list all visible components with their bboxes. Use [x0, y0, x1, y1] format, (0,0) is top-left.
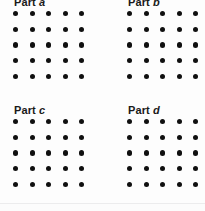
dot-marker: [160, 11, 165, 16]
dot-cell: [13, 58, 30, 74]
dot-cell: [63, 150, 80, 166]
dot-marker: [193, 42, 198, 47]
dot-cell: [127, 11, 144, 27]
dot-cell: [46, 27, 63, 43]
dot-marker: [30, 182, 35, 187]
dot-marker: [160, 150, 165, 155]
dot-marker: [193, 74, 198, 79]
dot-marker: [193, 150, 198, 155]
dot-cell: [193, 135, 205, 151]
dot-cell: [160, 119, 177, 135]
bottom-divider: [0, 203, 205, 204]
dot-cell: [144, 11, 161, 27]
dot-marker: [144, 58, 149, 63]
dot-cell: [144, 119, 161, 135]
dot-marker: [63, 27, 68, 32]
dot-cell: [46, 182, 63, 198]
dot-marker: [13, 58, 18, 63]
dot-marker: [30, 166, 35, 171]
dot-cell: [30, 135, 47, 151]
dot-marker: [79, 58, 84, 63]
dot-cell: [79, 182, 96, 198]
dot-cell: [160, 135, 177, 151]
panel-b-label-prefix: Part: [128, 0, 153, 8]
dot-cell: [46, 58, 63, 74]
dot-marker: [127, 135, 132, 140]
dot-cell: [177, 11, 194, 27]
panel-part-b: Part b: [114, 0, 205, 89]
dot-marker: [46, 27, 51, 32]
dot-cell: [193, 74, 205, 90]
dot-cell: [144, 166, 161, 182]
dot-marker: [193, 135, 198, 140]
dot-marker: [127, 27, 132, 32]
dot-cell: [79, 74, 96, 90]
dot-marker: [177, 135, 182, 140]
dot-cell: [79, 42, 96, 58]
dot-marker: [160, 166, 165, 171]
dot-marker: [79, 150, 84, 155]
panel-a-label-letter: a: [39, 0, 45, 8]
panel-a-label: Part a: [14, 0, 96, 8]
dot-cell: [30, 74, 47, 90]
dot-cell: [144, 42, 161, 58]
dot-cell: [46, 74, 63, 90]
panel-part-d: Part d: [114, 104, 205, 197]
dot-marker: [46, 135, 51, 140]
dot-cell: [79, 150, 96, 166]
dot-marker: [63, 150, 68, 155]
dot-cell: [79, 135, 96, 151]
dot-marker: [13, 74, 18, 79]
dot-cell: [177, 166, 194, 182]
dot-cell: [144, 58, 161, 74]
dot-marker: [13, 42, 18, 47]
dot-array-figure: Part a Part b Part c Part d: [0, 0, 205, 211]
dot-marker: [177, 119, 182, 124]
dot-marker: [177, 150, 182, 155]
panel-c-grid-slot: [0, 116, 96, 197]
dot-cell: [63, 11, 80, 27]
dot-cell: [63, 182, 80, 198]
dot-marker: [144, 150, 149, 155]
dot-cell: [160, 150, 177, 166]
dot-marker: [144, 135, 149, 140]
dot-marker: [144, 166, 149, 171]
dot-cell: [13, 135, 30, 151]
dot-marker: [160, 135, 165, 140]
dot-cell: [160, 27, 177, 43]
dot-cell: [13, 182, 30, 198]
dot-marker: [13, 166, 18, 171]
dot-marker: [63, 42, 68, 47]
dot-marker: [127, 182, 132, 187]
dot-marker: [127, 150, 132, 155]
dot-cell: [160, 74, 177, 90]
dot-cell: [144, 150, 161, 166]
dot-grid-d: [127, 119, 205, 197]
dot-cell: [127, 135, 144, 151]
dot-cell: [177, 182, 194, 198]
dot-marker: [160, 58, 165, 63]
dot-marker: [127, 11, 132, 16]
dot-cell: [63, 135, 80, 151]
dot-cell: [160, 11, 177, 27]
dot-cell: [127, 58, 144, 74]
dot-marker: [79, 182, 84, 187]
dot-cell: [30, 58, 47, 74]
dot-marker: [144, 119, 149, 124]
dot-marker: [30, 58, 35, 63]
dot-marker: [13, 182, 18, 187]
dot-cell: [13, 42, 30, 58]
dot-marker: [144, 42, 149, 47]
dot-cell: [160, 166, 177, 182]
dot-grid-b: [127, 11, 205, 89]
panel-d-label-letter: d: [153, 104, 160, 116]
dot-marker: [46, 166, 51, 171]
dot-cell: [193, 58, 205, 74]
dot-cell: [127, 166, 144, 182]
dot-cell: [63, 119, 80, 135]
dot-marker: [160, 74, 165, 79]
dot-cell: [127, 27, 144, 43]
dot-cell: [30, 42, 47, 58]
dot-cell: [193, 182, 205, 198]
dot-cell: [193, 42, 205, 58]
